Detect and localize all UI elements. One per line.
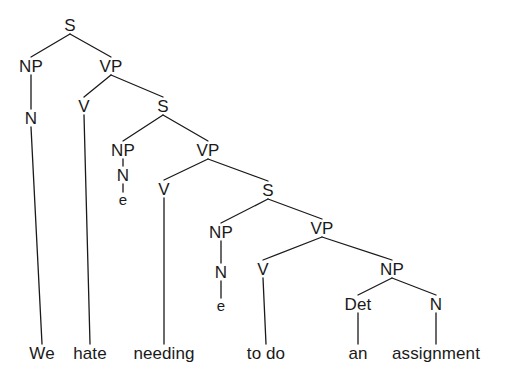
tree-node-s1: S — [64, 17, 75, 34]
tree-node-np3: NP — [209, 224, 233, 241]
tree-node-n1: N — [25, 110, 37, 127]
tree-node-vp3: VP — [311, 220, 334, 237]
tree-node-v1: V — [78, 98, 89, 115]
tree-edge — [70, 34, 111, 57]
tree-node-np4: NP — [380, 261, 404, 278]
tree-node-np1: NP — [19, 58, 43, 75]
tree-edge — [84, 115, 90, 344]
tree-edge — [31, 127, 42, 344]
tree-node-vp2: VP — [197, 142, 220, 159]
tree-edge — [263, 237, 322, 260]
tree-node-np2: NP — [111, 142, 135, 159]
tree-node-s2: S — [157, 98, 168, 115]
tree-node-w4: to do — [247, 345, 285, 362]
tree-node-e2: e — [217, 298, 225, 313]
tree-edge — [263, 278, 266, 344]
tree-node-e1: e — [119, 192, 127, 207]
tree-node-v2: V — [158, 181, 169, 198]
tree-node-w6: assignment — [392, 345, 480, 362]
tree-edge — [163, 115, 208, 141]
tree-edge — [123, 115, 163, 141]
tree-node-det1: Det — [345, 296, 372, 313]
tree-edge — [111, 75, 163, 97]
tree-node-w2: hate — [73, 345, 107, 362]
tree-edge — [392, 278, 436, 295]
tree-edge — [208, 159, 268, 181]
tree-edge — [322, 237, 392, 260]
tree-edge — [84, 75, 111, 97]
tree-node-n2: N — [117, 167, 129, 184]
tree-edge — [221, 199, 268, 223]
tree-node-n3: N — [215, 264, 227, 281]
tree-node-w5: an — [348, 345, 367, 362]
tree-node-s3: S — [262, 182, 273, 199]
tree-edge — [268, 199, 322, 219]
tree-node-n4: N — [430, 296, 442, 313]
tree-node-w3: needing — [133, 345, 194, 362]
tree-node-vp1: VP — [100, 58, 123, 75]
tree-node-w1: We — [29, 345, 54, 362]
tree-edge — [31, 34, 70, 57]
syntax-tree-diagram: SNPVPNVSNPVPNeVSNPVPNeVNPDetNWehateneedi… — [0, 0, 512, 389]
tree-edge — [164, 159, 208, 180]
tree-edges-layer — [0, 0, 512, 389]
tree-edge — [358, 278, 392, 295]
tree-node-v3: V — [257, 261, 268, 278]
